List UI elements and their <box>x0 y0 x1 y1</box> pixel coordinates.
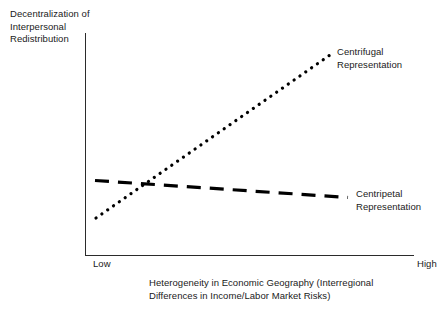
series-line-centripetal <box>95 181 348 198</box>
series-label-centrifugal-line-1: Centrifugal <box>337 46 384 57</box>
x-axis-title-line-2: Differences in Income/Labor Market Risks… <box>149 290 330 301</box>
series-label-centripetal-line-2: Representation <box>356 201 421 212</box>
series-label-centrifugal-line-2: Representation <box>337 59 402 70</box>
series-label-centrifugal: CentrifugalRepresentation <box>337 46 402 71</box>
chart-figure: Decentralization ofInterpersonalRedistri… <box>0 0 448 309</box>
x-axis-title-line-1: Heterogeneity in Economic Geography (Int… <box>149 277 373 288</box>
series-label-centripetal: CentripetalRepresentation <box>356 188 421 213</box>
x-tick-label-low: Low <box>93 258 111 271</box>
series-line-centrifugal <box>96 55 330 218</box>
x-tick-label-high: High <box>417 258 437 271</box>
series-label-centripetal-line-1: Centripetal <box>356 188 403 199</box>
x-axis-title: Heterogeneity in Economic Geography (Int… <box>149 277 373 302</box>
